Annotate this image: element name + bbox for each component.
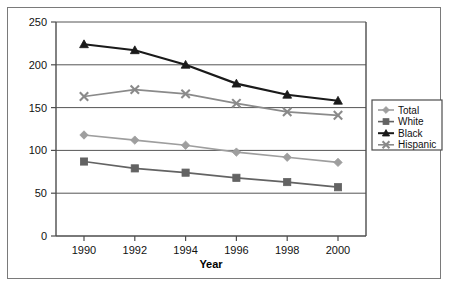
data-point-white-1998	[284, 178, 291, 185]
x-tick-label-1990: 1990	[72, 244, 96, 256]
y-tick-label-200: 200	[29, 59, 47, 71]
y-tick-label-150: 150	[29, 102, 47, 114]
y-tick-label-0: 0	[41, 230, 47, 242]
y-tick-label-250: 250	[29, 16, 47, 28]
legend-label-hispanic: Hispanic	[398, 139, 436, 150]
x-tick-label-2000: 2000	[326, 244, 350, 256]
legend-marker-white	[383, 119, 389, 125]
x-axis-ticks	[84, 236, 338, 241]
y-tick-label-50: 50	[35, 187, 47, 199]
legend-label-white: White	[398, 116, 424, 127]
figure-container: 050100150200250 199019921994199619982000…	[0, 0, 450, 290]
data-point-white-2000	[334, 184, 341, 191]
data-point-white-1996	[233, 174, 240, 181]
legend-label-total: Total	[398, 105, 419, 116]
x-tick-label-1992: 1992	[123, 244, 147, 256]
x-tick-label-1998: 1998	[275, 244, 299, 256]
chart-legend: TotalWhiteBlackHispanic	[372, 100, 442, 150]
plot-area-background	[56, 22, 366, 236]
y-axis-tick-labels: 050100150200250	[29, 16, 47, 242]
data-point-white-1994	[182, 169, 189, 176]
y-axis-ticks	[51, 22, 56, 236]
x-axis-title: Year	[199, 258, 223, 270]
x-tick-label-1994: 1994	[173, 244, 197, 256]
line-chart: 050100150200250 199019921994199619982000…	[0, 0, 450, 290]
x-tick-label-1996: 1996	[224, 244, 248, 256]
legend-label-black: Black	[398, 128, 423, 139]
data-point-white-1990	[80, 158, 87, 165]
x-axis-tick-labels: 199019921994199619982000	[72, 244, 350, 256]
y-tick-label-100: 100	[29, 144, 47, 156]
data-point-white-1992	[131, 165, 138, 172]
